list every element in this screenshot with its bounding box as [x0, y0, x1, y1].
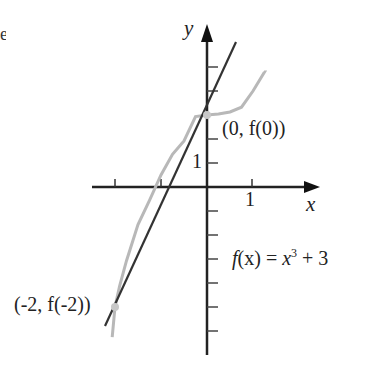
y-ticks — [207, 67, 218, 331]
point-0-f0 — [203, 111, 211, 119]
function-label: f(x) = x3 + 3 — [232, 246, 328, 270]
x-tick-label-1: 1 — [245, 188, 255, 211]
y-axis-label: y — [184, 16, 193, 41]
function-arg: (x) = — [238, 247, 283, 269]
point-label-0: (0, f(0)) — [222, 117, 285, 140]
cubic-curve — [112, 72, 264, 337]
point-label-neg2: (-2, f(-2)) — [14, 293, 91, 316]
graph-canvas — [0, 0, 382, 372]
function-var: x — [282, 247, 291, 269]
y-axis-arrow-icon — [201, 24, 213, 42]
cropped-text-fragment: e — [0, 24, 6, 45]
function-tail: + 3 — [297, 247, 328, 269]
x-axis-label: x — [306, 192, 315, 217]
point-neg2 — [111, 303, 119, 311]
y-tick-label-1: 1 — [192, 150, 202, 173]
